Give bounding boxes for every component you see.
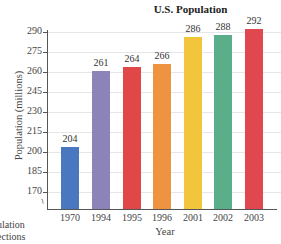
x-tick-label: 1970 <box>55 212 85 223</box>
y-tick-label: 215 <box>14 125 42 136</box>
side-caption-line-2: ections <box>0 231 25 242</box>
y-tick-label: 185 <box>14 165 42 176</box>
y-tick <box>43 152 48 153</box>
y-tick-label: 200 <box>14 145 42 156</box>
chart: U.S. Population Population (millions) ≀ … <box>0 0 281 244</box>
y-tick <box>43 92 48 93</box>
y-tick-label: 170 <box>14 185 42 196</box>
y-tick <box>43 172 48 173</box>
y-tick <box>43 192 48 193</box>
x-tick-label: 1996 <box>147 212 177 223</box>
bar-value-label: 261 <box>86 57 116 68</box>
y-tick <box>43 72 48 73</box>
axis-break-icon: ≀ <box>40 197 46 206</box>
y-tick-label: 230 <box>14 105 42 116</box>
y-tick-label: 245 <box>14 85 42 96</box>
x-tick-label: 2001 <box>178 212 208 223</box>
y-tick-label: 290 <box>14 25 42 36</box>
x-axis <box>47 209 277 210</box>
bar-value-label: 204 <box>55 133 85 144</box>
x-tick-label: 1994 <box>86 212 116 223</box>
bar-2003 <box>245 29 263 209</box>
bar-1995 <box>123 67 141 209</box>
bar-1970 <box>61 147 79 209</box>
bar-value-label: 264 <box>117 53 147 64</box>
bar-value-label: 288 <box>208 21 238 32</box>
bar-value-label: 286 <box>178 23 208 34</box>
x-tick-label: 1995 <box>117 212 147 223</box>
bar-2001 <box>184 37 202 209</box>
x-axis-label: Year <box>140 226 190 237</box>
chart-title: U.S. Population <box>100 3 281 15</box>
side-caption-line-1: ulation <box>0 219 25 230</box>
x-tick-label: 2003 <box>239 212 269 223</box>
y-tick <box>43 52 48 53</box>
y-tick <box>43 32 48 33</box>
x-tick-label: 2002 <box>208 212 238 223</box>
y-tick-label: 275 <box>14 45 42 56</box>
bar-2002 <box>214 35 232 209</box>
y-tick <box>43 132 48 133</box>
y-tick-label: 260 <box>14 65 42 76</box>
y-axis <box>47 30 48 210</box>
bar-value-label: 292 <box>239 15 269 26</box>
bar-1994 <box>92 71 110 209</box>
bar-1996 <box>153 64 171 209</box>
y-tick <box>43 112 48 113</box>
bar-value-label: 266 <box>147 50 177 61</box>
